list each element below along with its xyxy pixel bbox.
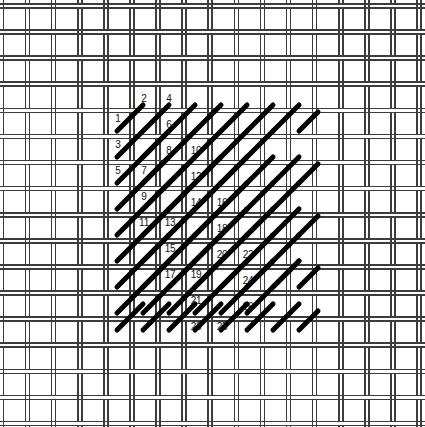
stitch-number-25: 25	[217, 322, 228, 332]
stitch-number-1: 1	[115, 114, 120, 124]
stitch-number-layer: 1234567891011121314151617181920212223242…	[0, 0, 425, 427]
stitch-number-24: 24	[243, 276, 254, 286]
stitch-number-9: 9	[141, 192, 146, 202]
stitch-number-26: 26	[243, 302, 254, 312]
stitch-number-20: 20	[217, 250, 228, 260]
stitch-number-23: 23	[191, 322, 202, 332]
stitch-number-17: 17	[165, 270, 176, 280]
stitch-number-21: 21	[191, 296, 202, 306]
stitch-number-22: 22	[243, 250, 254, 260]
stitch-number-4: 4	[166, 94, 171, 104]
stitch-number-19: 19	[191, 270, 202, 280]
stitch-number-18: 18	[217, 224, 228, 234]
stitch-number-13: 13	[165, 218, 176, 228]
stitch-number-2: 2	[141, 94, 146, 104]
stitch-number-6: 6	[166, 120, 171, 130]
stitch-number-10: 10	[191, 146, 202, 156]
stitch-number-11: 11	[139, 218, 149, 228]
stitch-diagram-figure: 1234567891011121314151617181920212223242…	[0, 0, 425, 427]
stitch-number-15: 15	[165, 244, 176, 254]
stitch-number-3: 3	[115, 140, 120, 150]
stitch-number-14: 14	[191, 198, 202, 208]
stitch-number-5: 5	[115, 166, 120, 176]
stitch-number-8: 8	[166, 146, 171, 156]
stitch-number-12: 12	[191, 172, 202, 182]
stitch-number-7: 7	[141, 166, 146, 176]
stitch-number-16: 16	[217, 198, 228, 208]
